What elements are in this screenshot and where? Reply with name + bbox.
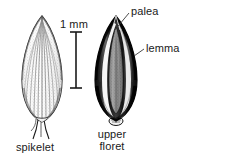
spikelet-texture bbox=[20, 14, 66, 126]
spikelet-drawing bbox=[20, 14, 66, 139]
label-lemma: lemma bbox=[146, 42, 180, 54]
label-palea: palea bbox=[131, 5, 158, 17]
leader-line-lemma bbox=[134, 49, 144, 56]
label-spikelet: spikelet bbox=[16, 141, 54, 153]
upper-floret-drawing bbox=[95, 16, 137, 126]
spikelet-pedicel bbox=[31, 119, 49, 139]
label-upper-floret-line2: floret bbox=[86, 140, 138, 152]
scale-bar-label: 1 mm bbox=[60, 18, 88, 30]
label-upper-floret-line1: upper bbox=[86, 128, 138, 140]
label-upper-floret: upper floret bbox=[86, 128, 138, 152]
scale-bar bbox=[70, 32, 82, 88]
botanical-figure: palea lemma 1 mm spikelet upper floret bbox=[0, 0, 239, 168]
